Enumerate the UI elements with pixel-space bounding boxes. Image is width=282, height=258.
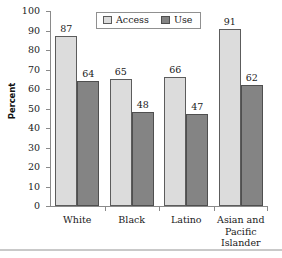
bar-value-label: 48	[137, 100, 149, 110]
bar-use-black	[132, 112, 154, 206]
y-tick-label-60: 60	[28, 84, 40, 94]
bar-access-latino	[164, 77, 186, 206]
y-tick-label-10: 10	[28, 182, 40, 192]
y-tick-label-80: 80	[28, 45, 40, 55]
y-tick-20: 20	[46, 167, 50, 168]
category-label: Black	[118, 214, 145, 226]
x-tick-separator-2	[159, 207, 160, 211]
bar-value-label: 66	[169, 65, 181, 75]
category-label: White	[63, 214, 91, 226]
y-tick-label-100: 100	[22, 6, 40, 16]
category-label: Asian andPacificIslander	[217, 214, 264, 249]
y-tick-70: 70	[46, 70, 50, 71]
bar-value-label: 87	[60, 24, 72, 34]
bar-value-label: 65	[115, 67, 127, 77]
y-tick-label-50: 50	[28, 104, 40, 114]
bar-access-asian-and-pacific-islander	[219, 29, 241, 206]
x-tick-separator-3	[214, 207, 215, 211]
legend-item-access: Access	[103, 15, 149, 25]
y-tick-30: 30	[46, 148, 50, 149]
legend-swatch-use-icon	[161, 16, 170, 24]
y-tick-60: 60	[46, 89, 50, 90]
x-tick-separator-1	[105, 207, 106, 211]
bar-access-black	[110, 79, 132, 206]
bar-access-white	[55, 36, 77, 206]
y-tick-label-20: 20	[28, 162, 40, 172]
chart-legend: AccessUse	[96, 12, 201, 29]
y-tick-label-0: 0	[34, 201, 40, 211]
y-tick-50: 50	[46, 109, 50, 110]
plot-area: 1009080706050403020100 8764654866479162 …	[50, 11, 268, 207]
bar-value-label: 62	[246, 73, 258, 83]
x-tick-end	[267, 207, 268, 211]
bar-use-white	[77, 81, 99, 206]
y-tick-label-40: 40	[28, 123, 40, 133]
y-tick-10: 10	[46, 187, 50, 188]
y-tick-40: 40	[46, 128, 50, 129]
y-axis-line	[50, 11, 51, 207]
y-tick-90: 90	[46, 31, 50, 32]
y-tick-label-90: 90	[28, 26, 40, 36]
bar-value-label: 91	[224, 17, 236, 27]
legend-label: Use	[174, 15, 193, 25]
category-label: Latino	[171, 214, 202, 226]
y-tick-80: 80	[46, 50, 50, 51]
y-tick-label-30: 30	[28, 143, 40, 153]
y-tick-100: 100	[46, 11, 50, 12]
bar-use-latino	[186, 114, 208, 206]
bar-use-asian-and-pacific-islander	[241, 85, 263, 206]
y-tick-0: 0	[46, 206, 50, 207]
bar-value-label: 64	[82, 69, 94, 79]
bar-value-label: 47	[191, 102, 203, 112]
legend-label: Access	[116, 15, 149, 25]
bar-chart: Percent 1009080706050403020100 876465486…	[0, 0, 282, 258]
y-tick-label-70: 70	[28, 65, 40, 75]
legend-swatch-access-icon	[103, 16, 112, 24]
bottom-divider	[0, 249, 282, 251]
y-axis-title: Percent	[7, 71, 17, 131]
legend-item-use: Use	[161, 15, 193, 25]
